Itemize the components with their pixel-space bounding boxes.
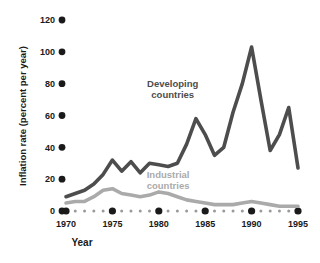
- x-tick-dot: [294, 207, 301, 214]
- x-tick-label: 1995: [288, 219, 308, 229]
- y-tick-dot: [59, 80, 66, 87]
- x-axis: 197019751980198519901995: [56, 207, 308, 229]
- x-axis-dot: [83, 210, 86, 213]
- y-tick-label: 80: [45, 79, 55, 89]
- inflation-chart: 020406080100120197019751980198519901995D…: [0, 0, 320, 263]
- x-tick-label: 1975: [102, 219, 122, 229]
- svg-text:countries: countries: [151, 89, 194, 100]
- y-tick-dot: [59, 112, 66, 119]
- x-axis-dot: [74, 210, 77, 213]
- x-tick-label: 1985: [195, 219, 215, 229]
- x-axis-dot: [213, 210, 216, 213]
- x-axis-dot: [259, 210, 262, 213]
- x-axis-dot: [287, 210, 290, 213]
- series-line-industrial: [66, 189, 298, 207]
- chart-canvas: 020406080100120197019751980198519901995D…: [0, 0, 320, 263]
- x-axis-dot: [139, 210, 142, 213]
- y-tick-dot: [59, 176, 66, 183]
- series-label-developing: Developingcountries: [147, 78, 198, 100]
- x-tick-dot: [109, 207, 116, 214]
- y-tick-label: 0: [50, 206, 55, 216]
- x-axis-dot: [148, 210, 151, 213]
- x-axis-dot: [102, 210, 105, 213]
- x-axis-title: Year: [71, 237, 92, 248]
- y-axis-title: Inflation rate (percent per year): [17, 46, 28, 186]
- x-tick-dot: [155, 207, 162, 214]
- y-tick-label: 100: [40, 47, 55, 57]
- y-tick-dot: [59, 17, 66, 24]
- x-axis-dot: [176, 210, 179, 213]
- x-axis-dot: [269, 210, 272, 213]
- y-tick-label: 120: [40, 15, 55, 25]
- svg-text:Developing: Developing: [147, 78, 198, 89]
- y-axis: 020406080100120: [40, 15, 65, 216]
- x-tick-label: 1980: [149, 219, 169, 229]
- x-axis-dot: [120, 210, 123, 213]
- x-axis-dot: [194, 210, 197, 213]
- y-tick-dot: [59, 48, 66, 55]
- svg-text:Industrial: Industrial: [147, 169, 190, 180]
- svg-text:countries: countries: [147, 180, 190, 191]
- y-tick-dot: [59, 144, 66, 151]
- x-axis-dot: [232, 210, 235, 213]
- y-tick-label: 60: [45, 111, 55, 121]
- x-tick-dot: [62, 207, 69, 214]
- x-axis-dot: [185, 210, 188, 213]
- x-tick-label: 1970: [56, 219, 76, 229]
- x-tick-label: 1990: [242, 219, 262, 229]
- series-label-industrial: Industrialcountries: [147, 169, 190, 191]
- x-axis-dot: [92, 210, 95, 213]
- x-tick-dot: [202, 207, 209, 214]
- x-axis-dot: [129, 210, 132, 213]
- y-tick-label: 40: [45, 143, 55, 153]
- x-axis-dot: [241, 210, 244, 213]
- x-axis-dot: [167, 210, 170, 213]
- x-axis-dot: [278, 210, 281, 213]
- x-axis-dot: [222, 210, 225, 213]
- y-tick-label: 20: [45, 174, 55, 184]
- x-tick-dot: [248, 207, 255, 214]
